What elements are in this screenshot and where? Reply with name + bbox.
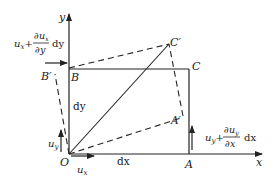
bottom-right-displacement-expression: uy+ ∂uy ∂x dx	[205, 124, 256, 149]
x-axis-label: x	[256, 156, 263, 169]
point-A-label: A	[184, 158, 193, 171]
svg-text:∂y: ∂y	[35, 44, 46, 55]
svg-text:∂ux: ∂ux	[34, 30, 49, 43]
y-axis-label: y	[58, 11, 66, 24]
uy-label: uy	[48, 138, 59, 151]
svg-text:dx: dx	[244, 132, 256, 143]
point-C-label: C	[192, 60, 201, 73]
svg-text:∂x: ∂x	[225, 138, 236, 149]
dx-label: dx	[117, 155, 130, 167]
point-B-prime-label: B′	[40, 70, 52, 83]
point-B-label: B	[70, 71, 79, 84]
svg-text:uy+: uy+	[205, 132, 224, 145]
dashed-A-prime-C-prime	[169, 44, 183, 116]
point-A-prime-label: A′	[170, 114, 182, 126]
svg-text:ux+: ux+	[14, 38, 33, 51]
diagram-canvas: O A B C A′ B′ C′ x y dx dy ux uy ux+ ∂ux…	[0, 0, 275, 177]
dashed-OB-prime	[55, 74, 69, 154]
svg-text:∂uy: ∂uy	[224, 124, 239, 137]
strain-diagram: O A B C A′ B′ C′ x y dx dy ux uy ux+ ∂ux…	[0, 0, 275, 177]
svg-text:dy: dy	[52, 38, 64, 49]
ux-label: ux	[77, 164, 87, 177]
origin-label: O	[60, 156, 69, 169]
top-left-displacement-expression: ux+ ∂ux ∂y dy	[14, 30, 64, 55]
dashed-B-prime-C-prime	[69, 44, 169, 68]
point-C-prime-label: C′	[170, 36, 181, 49]
dy-label: dy	[73, 100, 86, 112]
